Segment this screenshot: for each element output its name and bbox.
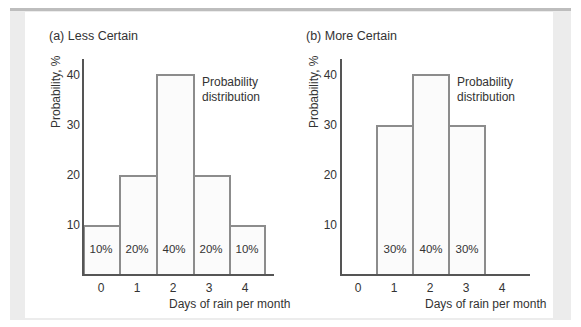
chart-b-xtick-4: 4 — [492, 281, 512, 295]
chart-a-bar-label-3: 20% — [193, 243, 229, 255]
chart-a-bar-label-1: 20% — [119, 243, 155, 255]
chart-b-xtick-1: 1 — [384, 281, 404, 295]
chart-b-bar-label-3: 30% — [449, 243, 485, 255]
chart-a-ytick-10: 10 — [60, 218, 80, 232]
chart-a-y-axis — [82, 59, 84, 276]
chart-a-xtick-1: 1 — [127, 281, 147, 295]
chart-b-xtick-2: 2 — [420, 281, 440, 295]
chart-a-annotation: Probability distribution — [202, 75, 260, 105]
chart-a-ytick-30: 30 — [60, 118, 80, 132]
chart-a-xtick-0: 0 — [91, 281, 111, 295]
chart-b-x-axis — [340, 274, 530, 276]
chart-b-annotation: Probability distribution — [457, 75, 515, 105]
chart-a-bar-label-2: 40% — [156, 243, 192, 255]
chart-a-bar-1 — [119, 175, 158, 275]
chart-a-xtick-4: 4 — [235, 281, 255, 295]
chart-b-ytick-30: 30 — [317, 118, 337, 132]
chart-b-xlabel: Days of rain per month — [425, 297, 546, 311]
chart-a-xlabel: Days of rain per month — [169, 297, 290, 311]
chart-b-bar-label-2: 40% — [413, 243, 449, 255]
chart-b-xtick-0: 0 — [348, 281, 368, 295]
chart-b-ytick-10: 10 — [317, 218, 337, 232]
chart-a-bar-label-4: 10% — [229, 243, 265, 255]
chart-b-bar-label-1: 30% — [377, 243, 413, 255]
chart-a-title: (a) Less Certain — [49, 29, 138, 43]
annotation-line-1: Probability — [202, 75, 260, 90]
chart-a-bar-label-0: 10% — [83, 243, 119, 255]
chart-a-ytick-40: 40 — [60, 68, 80, 82]
chart-b-ytick-20: 20 — [317, 168, 337, 182]
annotation-line-2: distribution — [202, 90, 260, 105]
chart-b-xtick-3: 3 — [456, 281, 476, 295]
annotation-line-2: distribution — [457, 90, 515, 105]
chart-b-ytick-40: 40 — [317, 68, 337, 82]
chart-a-xtick-3: 3 — [199, 281, 219, 295]
chart-a-ytick-20: 20 — [60, 168, 80, 182]
chart-b-y-axis — [340, 59, 342, 276]
chart-a-x-axis — [82, 274, 274, 276]
figure: (a) Less Certain Probability, % 10 20 30… — [0, 0, 581, 327]
chart-a-xtick-2: 2 — [163, 281, 183, 295]
annotation-line-1: Probability — [457, 75, 515, 90]
chart-a-bar-3 — [193, 175, 231, 275]
chart-b-title: (b) More Certain — [306, 29, 397, 43]
